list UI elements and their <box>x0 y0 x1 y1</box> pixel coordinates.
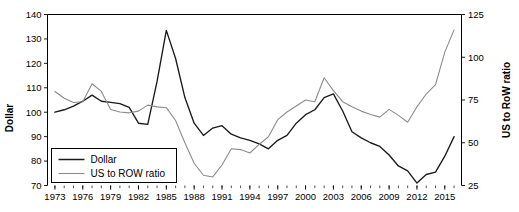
x-tick-label: 1979 <box>100 191 121 202</box>
x-tick-label: 2012 <box>406 191 427 202</box>
x-tick-label: 1976 <box>72 191 93 202</box>
y-right-tick-label: 125 <box>468 9 484 20</box>
y-right-tick-label: 50 <box>468 137 479 148</box>
x-tick-label: 1988 <box>184 191 205 202</box>
y-left-tick-label: 130 <box>26 33 42 44</box>
y-left-tick-label: 110 <box>26 82 41 93</box>
y-left-tick-label: 100 <box>26 107 42 118</box>
y-axis-right-ticks: 255075100125 <box>462 9 484 191</box>
x-axis-minor-ticks <box>55 186 454 189</box>
x-tick-label: 1982 <box>128 191 149 202</box>
x-tick-label: 1994 <box>239 191 260 202</box>
x-tick-label: 2000 <box>295 191 316 202</box>
x-tick-label: 2015 <box>434 191 455 202</box>
y-right-tick-label: 100 <box>468 52 484 63</box>
y-left-tick-label: 80 <box>31 155 42 166</box>
y-axis-left-ticks: 708090100110120130140 <box>26 9 48 191</box>
y-axis-left-title: Dollar <box>4 104 15 132</box>
y-right-tick-label: 25 <box>468 180 479 191</box>
y-right-tick-label: 75 <box>468 94 479 105</box>
x-tick-label: 1985 <box>156 191 177 202</box>
x-tick-label: 2006 <box>351 191 372 202</box>
dual-axis-line-chart: 708090100110120130140 255075100125 19731… <box>0 0 519 212</box>
y-left-tick-label: 120 <box>26 58 42 69</box>
chart-legend: DollarUS to ROW ratio <box>52 149 177 183</box>
y-left-tick-label: 90 <box>31 131 42 142</box>
x-tick-label: 1991 <box>211 191 232 202</box>
y-axis-right-title: US to RoW ratio <box>501 62 512 138</box>
x-tick-label: 2009 <box>379 191 400 202</box>
x-tick-label: 1973 <box>44 191 65 202</box>
chart-container: 708090100110120130140 255075100125 19731… <box>0 0 519 212</box>
y-left-tick-label: 140 <box>26 9 42 20</box>
legend-label-dollar: Dollar <box>91 154 118 165</box>
legend-label-us-to-row-ratio: US to ROW ratio <box>91 168 166 179</box>
x-tick-label: 1997 <box>267 191 288 202</box>
y-left-tick-label: 70 <box>31 180 42 191</box>
x-tick-label: 2003 <box>323 191 344 202</box>
